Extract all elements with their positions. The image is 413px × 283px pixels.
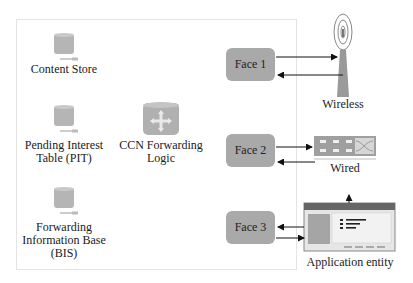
wired-label: Wired [315,162,375,175]
wireless-label: Wireless [313,98,373,111]
antenna-tower-icon [334,14,352,97]
face-1: Face 1 [226,48,275,81]
application-entity-label: Application entity [300,256,400,269]
content-store-label: Content Store [22,63,106,76]
fib-label: Forwarding Information Base (BIS) [14,221,114,260]
ccn-forwarding-logic-label: CCN Forwarding Logic [114,139,208,165]
pit-label: Pending Interest Table (PIT) [16,139,112,165]
network-switch-icon [314,136,376,159]
database-icon [54,105,78,133]
router-icon [143,102,179,135]
application-window-icon [304,203,395,251]
face-3: Face 3 [226,211,275,244]
database-icon [54,33,78,61]
face-2: Face 2 [226,134,275,167]
database-icon [54,187,78,215]
